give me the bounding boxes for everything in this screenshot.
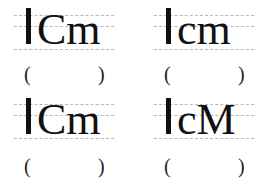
digit-one: [26, 98, 31, 134]
answer-close-paren: ): [238, 62, 245, 86]
writing-cell-4: cM ( ): [140, 90, 261, 183]
answer-open-paren: (: [24, 62, 31, 86]
answer-open-paren: (: [24, 154, 31, 178]
answer-close-paren: ): [98, 62, 105, 86]
writing-cell-2: cm ( ): [140, 0, 261, 93]
written-unit: Cm: [26, 92, 101, 148]
answer-open-paren: (: [164, 154, 171, 178]
digit-one: [166, 98, 171, 134]
written-unit: cM: [166, 92, 236, 148]
digit-one: [26, 8, 31, 44]
unit-letters: cM: [177, 95, 236, 144]
unit-letters: Cm: [37, 5, 101, 54]
writing-cell-3: Cm ( ): [0, 90, 130, 183]
answer-close-paren: ): [238, 154, 245, 178]
unit-letters: cm: [177, 5, 231, 54]
answer-close-paren: ): [98, 154, 105, 178]
writing-cell-1: Cm ( ): [0, 0, 130, 93]
written-unit: cm: [166, 2, 231, 58]
unit-letters: Cm: [37, 95, 101, 144]
digit-one: [166, 8, 171, 44]
written-unit: Cm: [26, 2, 101, 58]
answer-open-paren: (: [164, 62, 171, 86]
